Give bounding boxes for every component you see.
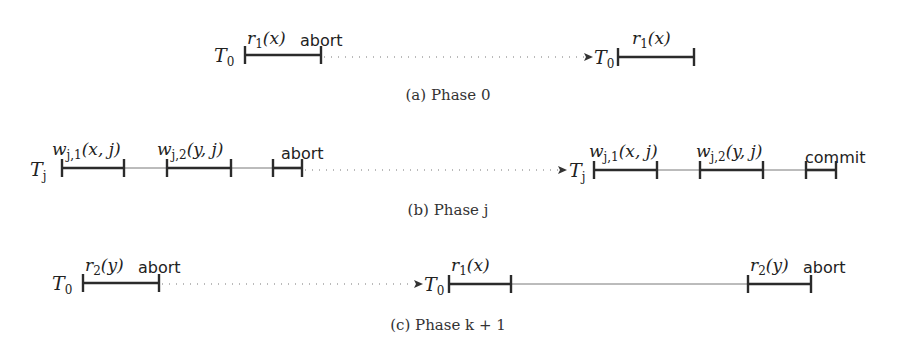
op-label-r1x: r1(x) <box>247 28 286 51</box>
op-label-wj2-retry: wj,2(y, j) <box>696 141 762 164</box>
op-label-r2y: r2(y) <box>85 255 124 278</box>
op-label-wj1: wj,1(x, j) <box>52 139 121 162</box>
op-label-r1x: r1(x) <box>451 255 490 278</box>
caption-phase-k-plus-1: (c) Phase k + 1 <box>390 316 506 334</box>
status-abort: abort <box>803 258 846 277</box>
transaction-phase-diagram: T0 r1(x) abort T0 r1(x) (a) Phase 0 Tj w… <box>0 0 897 345</box>
op-label-r1x-retry: r1(x) <box>632 28 671 51</box>
txn-label-tj-retry: Tj <box>569 159 585 184</box>
status-abort: abort <box>281 144 324 163</box>
phase-j: Tj wj,1(x, j) wj,2(y, j) abort Tj wj,1(x… <box>30 139 865 219</box>
txn-label-t0-retry: T0 <box>424 273 444 298</box>
status-abort: abort <box>300 31 343 50</box>
status-commit: commit <box>805 148 865 167</box>
txn-label-t0: T0 <box>214 44 234 69</box>
txn-label-tj: Tj <box>30 158 46 183</box>
status-abort: abort <box>138 258 181 277</box>
arrow-head-icon <box>558 166 567 174</box>
arrow-head-icon <box>414 280 423 288</box>
op-label-r2y-retry: r2(y) <box>750 255 789 278</box>
phase-k-plus-1: T0 r2(y) abort T0 r1(x) r2(y) abort (c) … <box>52 255 846 334</box>
txn-label-t0: T0 <box>52 272 72 297</box>
arrow-head-icon <box>584 53 593 61</box>
caption-phase-0: (a) Phase 0 <box>406 86 491 104</box>
phase-0: T0 r1(x) abort T0 r1(x) (a) Phase 0 <box>214 28 694 104</box>
op-label-wj2: wj,2(y, j) <box>157 139 223 162</box>
op-label-wj1-retry: wj,1(x, j) <box>589 141 658 164</box>
txn-label-t0-retry: T0 <box>594 46 614 71</box>
caption-phase-j: (b) Phase j <box>408 201 489 219</box>
